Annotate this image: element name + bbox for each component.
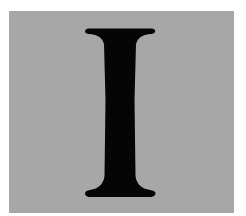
letter-i-glyph [0, 0, 246, 216]
